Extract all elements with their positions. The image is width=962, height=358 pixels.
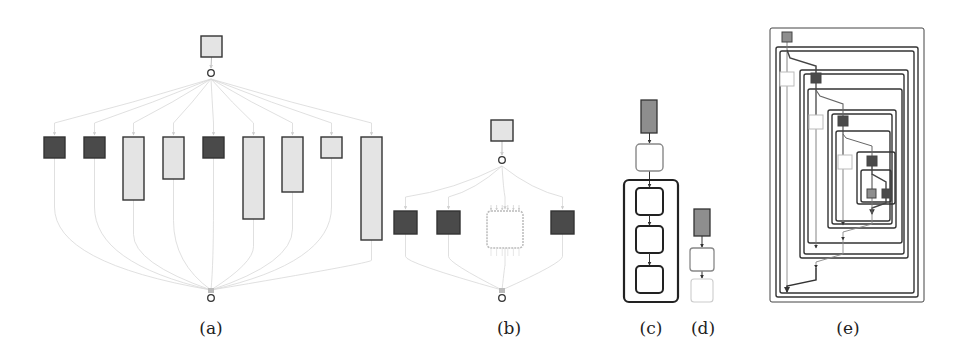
- edge-fork-node: [95, 79, 212, 135]
- task-node-dark: [551, 211, 574, 234]
- source-node: [201, 36, 222, 57]
- figure-canvas: [0, 0, 962, 358]
- task-node-dark: [437, 211, 460, 234]
- join-circle: [499, 295, 506, 302]
- edge-fork-node: [406, 166, 503, 209]
- panel-c-sequence-container: [624, 100, 678, 302]
- caption-a: (a): [199, 318, 222, 338]
- caption-e: (e): [836, 318, 859, 338]
- panel-a-fork-join-graph: [44, 36, 382, 301]
- task-node-mid: [867, 189, 876, 198]
- edge-node-join: [211, 158, 214, 290]
- edge: [816, 90, 843, 116]
- task-node-dark: [394, 211, 417, 234]
- source-node: [491, 120, 513, 141]
- first-node: [636, 144, 663, 171]
- caption-d: (d): [691, 318, 715, 338]
- sequence-node: [636, 188, 663, 215]
- edge-fork-node: [134, 79, 212, 135]
- task-node-light: [321, 137, 342, 158]
- edge: [843, 214, 872, 240]
- task-node-mid: [782, 32, 792, 42]
- edge-fork-node: [502, 166, 505, 209]
- fork-circle: [208, 70, 215, 77]
- caption-b: (b): [497, 318, 521, 338]
- faded-node: [691, 279, 713, 302]
- edge: [787, 268, 816, 292]
- panel-d-collapsed-sequence: [690, 209, 714, 302]
- nested-frame: [836, 131, 890, 221]
- edge-source-fork: [211, 57, 212, 68]
- edge-fork-node: [211, 79, 372, 135]
- edge-node-join: [174, 179, 212, 290]
- task-node-white: [838, 155, 852, 169]
- task-node-light: [163, 137, 184, 179]
- middle-node: [690, 248, 714, 271]
- edge-node-join: [134, 200, 212, 290]
- caption-c: (c): [640, 318, 663, 338]
- join-marker: [499, 288, 505, 293]
- task-node-white: [809, 115, 823, 129]
- edge: [872, 198, 886, 214]
- edge-fork-node: [211, 79, 332, 135]
- task-node-light: [243, 137, 264, 219]
- task-node-dark: [882, 189, 891, 198]
- sequence-node: [636, 226, 663, 253]
- edge-fork-node: [211, 79, 293, 135]
- task-node-dark: [84, 137, 105, 158]
- panel-e-nested-containers: [770, 28, 924, 302]
- edge-fork-node: [449, 166, 503, 209]
- edge-node-join: [211, 158, 332, 290]
- task-node-light: [361, 137, 382, 240]
- edge-node-join: [211, 219, 254, 290]
- task-node-dark: [867, 156, 877, 166]
- fork-circle: [499, 157, 506, 164]
- nested-frame: [808, 89, 902, 243]
- top-node: [694, 209, 710, 236]
- edge-node-join: [95, 158, 212, 290]
- nested-frame: [804, 74, 904, 254]
- collapsed-node: [487, 211, 523, 248]
- task-node-dark: [811, 73, 821, 83]
- task-node-dark: [838, 116, 848, 126]
- join-circle: [208, 295, 215, 302]
- edge-fork-node: [174, 79, 212, 135]
- task-node-light: [123, 137, 144, 200]
- task-node-dark: [44, 137, 65, 158]
- edge-fork-node: [211, 79, 214, 135]
- task-node-white: [780, 72, 794, 86]
- top-node: [641, 100, 657, 133]
- task-node-dark: [203, 137, 224, 158]
- join-marker: [208, 288, 214, 293]
- sequence-node: [636, 266, 663, 293]
- edge-node-join: [211, 240, 372, 290]
- task-node-light: [282, 137, 303, 192]
- panel-b-collapsed-graph: [394, 120, 574, 301]
- edge-fork-node: [502, 166, 563, 209]
